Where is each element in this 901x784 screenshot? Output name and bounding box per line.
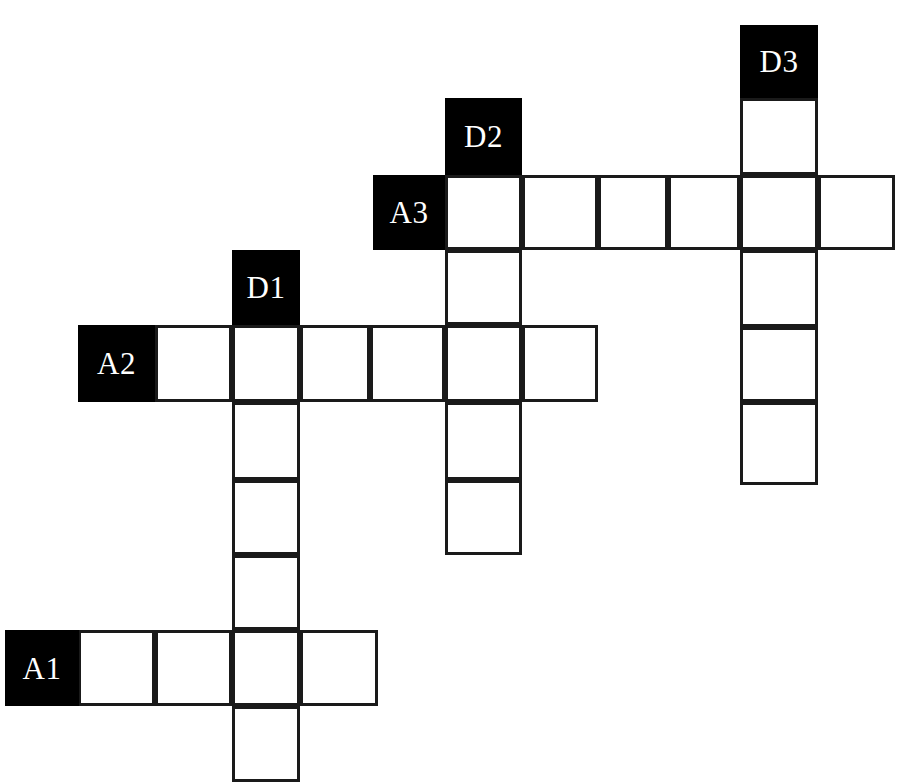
grid-cell-letter — [81, 633, 152, 703]
grid-cell-letter — [743, 405, 815, 482]
grid-cell[interactable] — [155, 325, 232, 402]
grid-cell[interactable] — [740, 402, 818, 485]
grid-cell-letter — [821, 178, 892, 247]
grid-cell[interactable] — [740, 250, 818, 327]
grid-cell-letter — [303, 633, 375, 703]
clue-label-text: A2 — [97, 348, 136, 379]
grid-cell-letter — [448, 483, 519, 552]
grid-cell[interactable] — [445, 250, 522, 325]
grid-cell[interactable] — [740, 175, 818, 250]
grid-cell-letter — [601, 178, 665, 247]
grid-cell-letter — [235, 633, 297, 703]
grid-cell-letter — [743, 253, 815, 324]
grid-cell-letter — [448, 178, 519, 247]
grid-cell[interactable] — [522, 325, 598, 402]
grid-cell[interactable] — [598, 175, 668, 250]
grid-cell[interactable] — [740, 327, 818, 402]
clue-label-d3[interactable]: D3 — [740, 25, 818, 98]
grid-cell-letter — [235, 709, 297, 779]
grid-cell[interactable] — [445, 325, 522, 402]
grid-cell[interactable] — [522, 175, 598, 250]
clue-label-d1[interactable]: D1 — [232, 250, 300, 325]
grid-cell[interactable] — [668, 175, 740, 250]
clue-label-a1[interactable]: A1 — [5, 630, 79, 706]
grid-cell-letter — [525, 328, 595, 399]
grid-cell[interactable] — [232, 706, 300, 782]
grid-cell[interactable] — [300, 325, 370, 402]
clue-label-a2[interactable]: A2 — [78, 325, 155, 402]
grid-cell-letter — [743, 101, 815, 172]
grid-cell-letter — [448, 253, 519, 322]
grid-cell-letter — [158, 328, 229, 399]
grid-cell-letter — [235, 328, 297, 399]
clue-label-d2[interactable]: D2 — [445, 98, 522, 175]
grid-cell-letter — [373, 328, 442, 399]
clue-label-a3[interactable]: A3 — [373, 175, 445, 250]
grid-cell[interactable] — [818, 175, 895, 250]
grid-cell-letter — [235, 483, 297, 552]
grid-cell[interactable] — [78, 630, 155, 706]
grid-cell[interactable] — [232, 630, 300, 706]
grid-cell-letter — [158, 633, 229, 703]
grid-cell[interactable] — [232, 402, 300, 480]
grid-cell-letter — [303, 328, 367, 399]
clue-label-text: A3 — [390, 197, 429, 228]
clue-label-text: D2 — [464, 121, 503, 152]
grid-cell-letter — [525, 178, 595, 247]
grid-cell[interactable] — [740, 98, 818, 175]
grid-cell[interactable] — [232, 325, 300, 402]
clue-label-text: D3 — [760, 46, 799, 77]
grid-cell[interactable] — [300, 630, 378, 706]
clue-label-text: D1 — [247, 272, 286, 303]
grid-cell[interactable] — [445, 402, 522, 480]
grid-cell-letter — [448, 328, 519, 399]
grid-cell-letter — [235, 558, 297, 627]
grid-cell[interactable] — [232, 480, 300, 555]
grid-cell-letter — [448, 405, 519, 477]
grid-cell[interactable] — [370, 325, 445, 402]
grid-cell-letter — [671, 178, 737, 247]
grid-cell[interactable] — [445, 480, 522, 555]
grid-cell[interactable] — [445, 175, 522, 250]
clue-label-text: A1 — [23, 653, 62, 684]
grid-cell-letter — [235, 405, 297, 477]
grid-cell[interactable] — [232, 555, 300, 630]
crossword-grid: A1A2A3D1D2D3 — [0, 0, 901, 784]
grid-cell-letter — [743, 178, 815, 247]
grid-cell-letter — [743, 330, 815, 399]
grid-cell[interactable] — [155, 630, 232, 706]
